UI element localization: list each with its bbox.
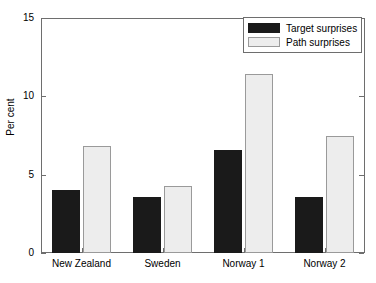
y-tick-mark-right bbox=[359, 253, 364, 254]
x-tick-mark bbox=[82, 248, 83, 253]
bar-path bbox=[245, 74, 273, 253]
bar-target bbox=[214, 150, 242, 253]
y-tick-mark bbox=[41, 96, 46, 97]
bar-target bbox=[52, 190, 80, 253]
y-tick-mark bbox=[41, 253, 46, 254]
legend-item-path: Path surprises bbox=[248, 35, 357, 49]
y-tick-mark-right bbox=[359, 96, 364, 97]
legend-item-target: Target surprises bbox=[248, 21, 357, 35]
y-tick-label: 10 bbox=[4, 91, 34, 101]
x-tick-label: Norway 2 bbox=[265, 258, 376, 269]
light-swatch-icon bbox=[248, 37, 280, 47]
y-tick-mark bbox=[41, 175, 46, 176]
y-tick-label: 15 bbox=[4, 13, 34, 23]
chart-legend: Target surprises Path surprises bbox=[243, 17, 362, 53]
bar-chart: Per cent 051015 New ZealandSwedenNorway … bbox=[0, 0, 376, 283]
bar-path bbox=[326, 136, 354, 254]
y-tick-mark-right bbox=[359, 175, 364, 176]
dark-swatch-icon bbox=[248, 23, 280, 33]
y-tick-label: 0 bbox=[4, 248, 34, 258]
bar-target bbox=[133, 197, 161, 253]
x-tick-mark bbox=[244, 248, 245, 253]
legend-label-target: Target surprises bbox=[286, 23, 357, 34]
legend-label-path: Path surprises bbox=[286, 37, 350, 48]
bar-path bbox=[164, 186, 192, 253]
y-tick-mark bbox=[41, 18, 46, 19]
bar-target bbox=[295, 197, 323, 253]
y-tick-label: 5 bbox=[4, 170, 34, 180]
x-tick-mark bbox=[163, 248, 164, 253]
bar-path bbox=[83, 146, 111, 253]
x-tick-mark bbox=[325, 248, 326, 253]
